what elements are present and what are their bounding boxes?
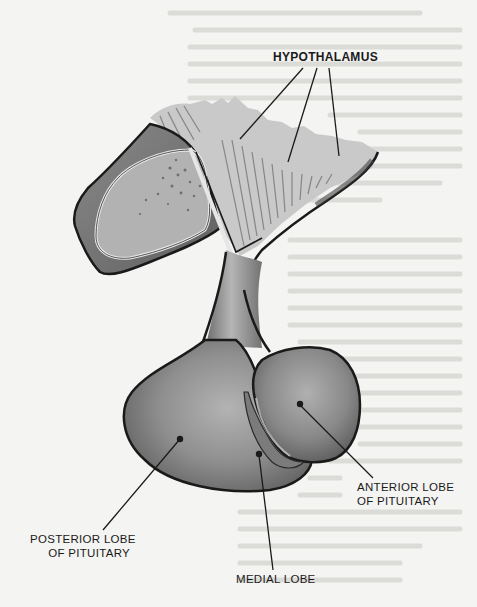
label-anterior-line1: ANTERIOR LOBE xyxy=(357,480,454,494)
label-anterior-line2: OF PITUITARY xyxy=(357,494,454,508)
pituitary-stalk xyxy=(206,250,262,348)
label-posterior-line1: POSTERIOR LOBE xyxy=(30,532,130,546)
label-posterior-line2: OF PITUITARY xyxy=(30,546,130,560)
posterior-pointer-dot xyxy=(177,436,183,442)
book-page: HYPOTHALAMUS ANTERIOR LOBE OF PITUITARY … xyxy=(0,0,477,607)
label-hypothalamus: HYPOTHALAMUS xyxy=(273,50,378,64)
label-anterior-lobe: ANTERIOR LOBE OF PITUITARY xyxy=(357,480,454,508)
label-posterior-lobe: POSTERIOR LOBE OF PITUITARY xyxy=(30,532,130,560)
label-medial-lobe: MEDIAL LOBE xyxy=(236,572,316,586)
medial-pointer-dot xyxy=(256,451,262,457)
anterior-pointer-dot xyxy=(297,401,303,407)
pituitary-illustration xyxy=(0,0,477,607)
